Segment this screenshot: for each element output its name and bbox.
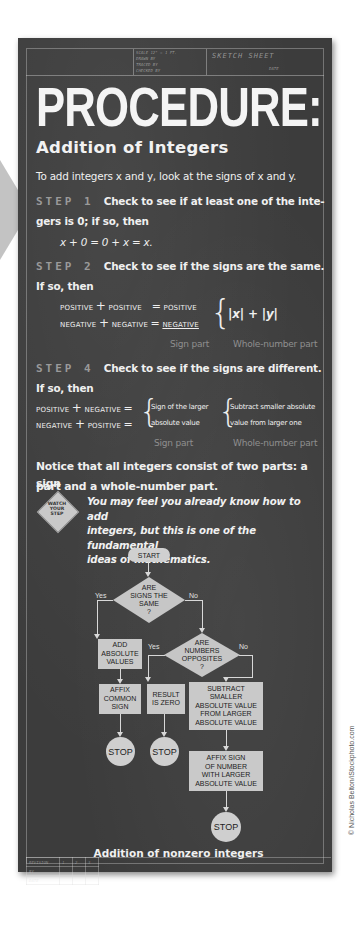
decision2-no-label: No <box>239 643 248 650</box>
equals-sign: = <box>151 317 160 330</box>
text-line: NUMBERS <box>182 647 222 655</box>
sign-rule-line2: absolute value <box>151 415 200 432</box>
operand: POSITIVE <box>60 304 93 312</box>
stop-node: STOP <box>106 737 135 766</box>
connector <box>239 655 253 656</box>
step-1-formula: x + 0 = 0 + x = x. <box>60 234 153 251</box>
date-label: DATE <box>27 876 60 885</box>
decision-numbers-opposites-text: ARENUMBERSOPPOSITES? <box>164 633 240 677</box>
revision-col: 2 <box>73 858 86 867</box>
step-2-text: Check to see if the signs are the same. <box>104 260 325 272</box>
operand: NEGATIVE <box>36 422 72 430</box>
add-absolute-values-box: ADDABSOLUTEVALUES <box>98 639 142 669</box>
revision-col: 3 <box>86 858 99 867</box>
connector <box>226 677 253 678</box>
by-label: BY <box>27 867 60 876</box>
page-title: PROCEDURE: <box>36 79 322 135</box>
text-line: WITH LARGER <box>195 771 257 780</box>
connector <box>120 714 121 734</box>
connector <box>97 600 113 601</box>
cell <box>86 867 99 876</box>
title-block-divider <box>206 49 207 75</box>
intro-text: To add integers x and y, look at the sig… <box>36 168 296 185</box>
warning-line: STEP <box>37 511 77 516</box>
connector <box>148 655 165 656</box>
sign-part-label: Sign part <box>154 435 193 452</box>
whole-number-part-label: Whole-number part <box>233 435 317 452</box>
title-block: SCALE 12" = 1 FT. DRAWN BY TRACED BY CHE… <box>133 49 324 75</box>
text-line: SMALLER <box>195 693 257 702</box>
note-text: You may feel you already know how to add… <box>87 495 317 568</box>
result: NEGATIVE <box>162 321 198 329</box>
text-line: ARE <box>130 584 168 592</box>
watch-your-step-text: WATCH YOUR STEP <box>37 501 77 516</box>
affix-common-sign-box: AFFIXCOMMONSIGN <box>99 684 141 714</box>
step-4-line2: If so, then <box>36 380 94 397</box>
text-line: COMMON <box>104 695 137 704</box>
connector <box>148 655 149 679</box>
text-line: ABSOLUTE <box>101 650 138 659</box>
title-block-fields: SCALE 12" = 1 FT. DRAWN BY TRACED BY CHE… <box>136 50 206 74</box>
connector <box>252 655 253 677</box>
checked-by-field: CHECKED BY <box>136 68 206 74</box>
start-node: START <box>128 548 170 562</box>
decision1-yes-label: Yes <box>95 592 106 599</box>
text-line: ARE <box>182 639 222 647</box>
step-2-line2: If so, then <box>36 278 94 295</box>
operand: NEGATIVE <box>60 321 96 329</box>
text-line: ? <box>182 663 222 671</box>
operand: POSITIVE <box>88 422 121 430</box>
sign-part-label: Sign part <box>170 336 209 353</box>
text-line: FROM LARGER <box>195 710 257 719</box>
plus-sign: + <box>96 299 106 313</box>
decision1-no-label: No <box>189 592 198 599</box>
equals-sign: = <box>123 418 132 431</box>
text-line: ABSOLUTE VALUE <box>195 780 257 789</box>
affix-sign-larger-box: AFFIX SIGNOF NUMBERWITH LARGERABSOLUTE V… <box>189 751 263 791</box>
plus-sign: + <box>72 401 82 415</box>
cell <box>60 876 73 885</box>
step-1-line2: gers is 0; if so, then <box>36 213 149 230</box>
whole-number-part-label: Whole-number part <box>233 336 317 353</box>
photo-credit: © Nicholas Belton/iStockphoto.com <box>348 726 355 835</box>
text-line: OF NUMBER <box>195 763 257 772</box>
sign-rule-line1: Sign of the larger <box>151 399 208 416</box>
step-4-label: STEP 4 <box>36 360 94 377</box>
connector <box>202 600 203 630</box>
step-4-line1: STEP 4Check to see if the signs are diff… <box>36 360 322 377</box>
text-line: VALUES <box>101 658 138 667</box>
notice-line2: part and a whole-number part. <box>36 478 218 495</box>
step-4-row-2: NEGATIVE + POSITIVE = <box>36 416 133 435</box>
step-2-line1: STEP 2Check to see if the signs are the … <box>36 258 324 275</box>
plus-sign: + <box>99 316 109 330</box>
revision-table: REVISION 1 2 3 BY DATE <box>26 857 99 885</box>
page-subtitle: Addition of Integers <box>36 138 229 157</box>
text-line: RESULT <box>152 691 180 700</box>
cell <box>73 876 86 885</box>
cell <box>73 867 86 876</box>
step-2-row-2: NEGATIVE + NEGATIVE = NEGATIVE <box>60 315 199 334</box>
operand: NEGATIVE <box>85 406 121 414</box>
text-line: SUBTRACT <box>195 685 257 694</box>
text-line: IS ZERO <box>152 699 180 708</box>
operand: POSITIVE <box>109 304 142 312</box>
stop-node: STOP <box>150 737 179 766</box>
whole-rule-line2: value from larger one <box>230 415 302 432</box>
arrow-down-icon <box>145 677 151 682</box>
decision2-yes-label: Yes <box>148 643 159 650</box>
revision-col: 1 <box>60 858 73 867</box>
step-2-label: STEP 2 <box>36 258 94 275</box>
step-1-line1: STEP 1Check to see if at least one of th… <box>36 193 324 210</box>
text-line: SIGN <box>104 703 137 712</box>
plus-sign: + <box>75 417 85 431</box>
connector <box>185 600 203 601</box>
decision-signs-same-text: ARESIGNS THESAME? <box>113 577 185 623</box>
step-1-text: Check to see if at least one of the inte… <box>104 195 325 207</box>
whole-number-expression: |x| + |y| <box>228 306 278 323</box>
text-line: SIGNS THE <box>130 592 168 600</box>
result-is-zero-box: RESULTIS ZERO <box>147 684 185 714</box>
revision-label: REVISION <box>27 858 60 867</box>
stop-node: STOP <box>211 812 241 842</box>
step-1-label: STEP 1 <box>36 193 94 210</box>
date-field: DATE <box>269 66 279 71</box>
